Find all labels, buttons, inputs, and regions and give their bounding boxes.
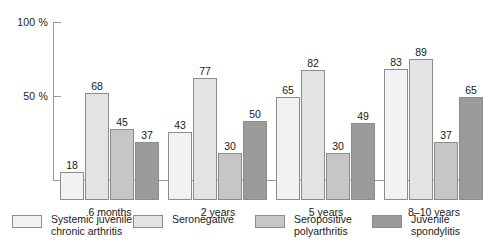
- bar: [326, 153, 350, 200]
- bar: [351, 123, 375, 200]
- bar-value-label: 50: [237, 108, 273, 120]
- bar: [459, 97, 483, 200]
- chart-legend: Systemic juvenile chronic arthritisSeron…: [0, 206, 483, 246]
- legend-swatch-icon: [12, 215, 42, 228]
- bar-group: 437730502 years: [168, 20, 268, 200]
- bar-value-label: 37: [129, 129, 165, 141]
- bar-value-label: 65: [453, 84, 483, 96]
- bar: [243, 121, 267, 200]
- bar: [276, 97, 300, 200]
- legend-item[interactable]: Seropositive polyarthritis: [255, 214, 352, 237]
- legend-swatch-icon: [372, 215, 402, 228]
- bar-value-label: 82: [295, 57, 331, 69]
- bar: [60, 172, 84, 200]
- bar-group: 658230495 years: [276, 20, 376, 200]
- legend-swatch-icon: [255, 215, 285, 228]
- legend-label: Juvenile spondylitis: [411, 214, 460, 237]
- bar: [434, 142, 458, 200]
- legend-item[interactable]: Seronegative: [133, 214, 234, 228]
- bar: [301, 70, 325, 200]
- y-axis-label-50: 50 %: [2, 90, 48, 102]
- legend-label: Systemic juvenile chronic arthritis: [51, 214, 132, 237]
- bar: [218, 153, 242, 200]
- bar: [135, 142, 159, 200]
- bar: [85, 93, 109, 200]
- legend-label: Seronegative: [172, 214, 234, 226]
- legend-item[interactable]: Juvenile spondylitis: [372, 214, 460, 237]
- bar-chart: 100 % 50 % 186845376 months437730502 yea…: [0, 0, 483, 246]
- y-axis-line: [53, 22, 54, 181]
- bar-value-label: 77: [187, 65, 223, 77]
- legend-label: Seropositive polyarthritis: [294, 214, 352, 237]
- legend-swatch-icon: [133, 215, 163, 228]
- legend-item[interactable]: Systemic juvenile chronic arthritis: [12, 214, 132, 237]
- y-axis-label-100: 100 %: [2, 16, 48, 28]
- bar-value-label: 68: [79, 80, 115, 92]
- bar: [384, 69, 408, 200]
- bar-group: 838937658–10 years: [384, 20, 483, 200]
- bar-group: 186845376 months: [60, 20, 160, 200]
- bar-value-label: 49: [345, 110, 381, 122]
- bar-value-label: 45: [104, 116, 140, 128]
- bar-value-label: 89: [403, 46, 439, 58]
- bar: [168, 132, 192, 200]
- plot-area: 100 % 50 % 186845376 months437730502 yea…: [0, 0, 483, 200]
